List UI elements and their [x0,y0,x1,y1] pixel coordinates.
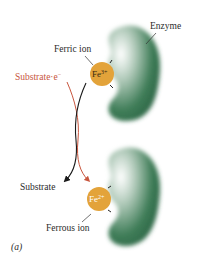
electron-transfer-arrow [67,82,88,180]
ion-element: Fe [92,69,101,79]
enzyme-top-shape [108,25,160,121]
ion-charge: 3+ [101,69,107,75]
binding-tick [110,85,113,88]
enzyme-label: Enzyme [150,22,181,32]
ferric-ion-label: Ferric ion [54,45,91,55]
ferrous-leader-line [82,214,91,222]
enzyme-bottom-shape [108,147,160,246]
ion-charge: 2+ [98,194,104,200]
substrate-reduced-text: Substrate·e [15,72,58,82]
ferric-leader-line [85,56,93,65]
substrate-release-arrow [66,83,86,180]
binding-tick [108,210,111,212]
electron-charge: − [58,71,61,77]
substrate-label: Substrate [20,183,55,193]
panel-label: (a) [11,243,22,253]
ferrous-ion-symbol: Fe2+ [89,194,104,204]
ion-element: Fe [89,194,98,204]
ferric-ion-symbol: Fe3+ [92,69,107,79]
ferrous-ion-label: Ferrous ion [46,224,90,234]
substrate-reduced-label: Substrate·e− [15,71,61,83]
diagram-canvas [0,0,207,273]
